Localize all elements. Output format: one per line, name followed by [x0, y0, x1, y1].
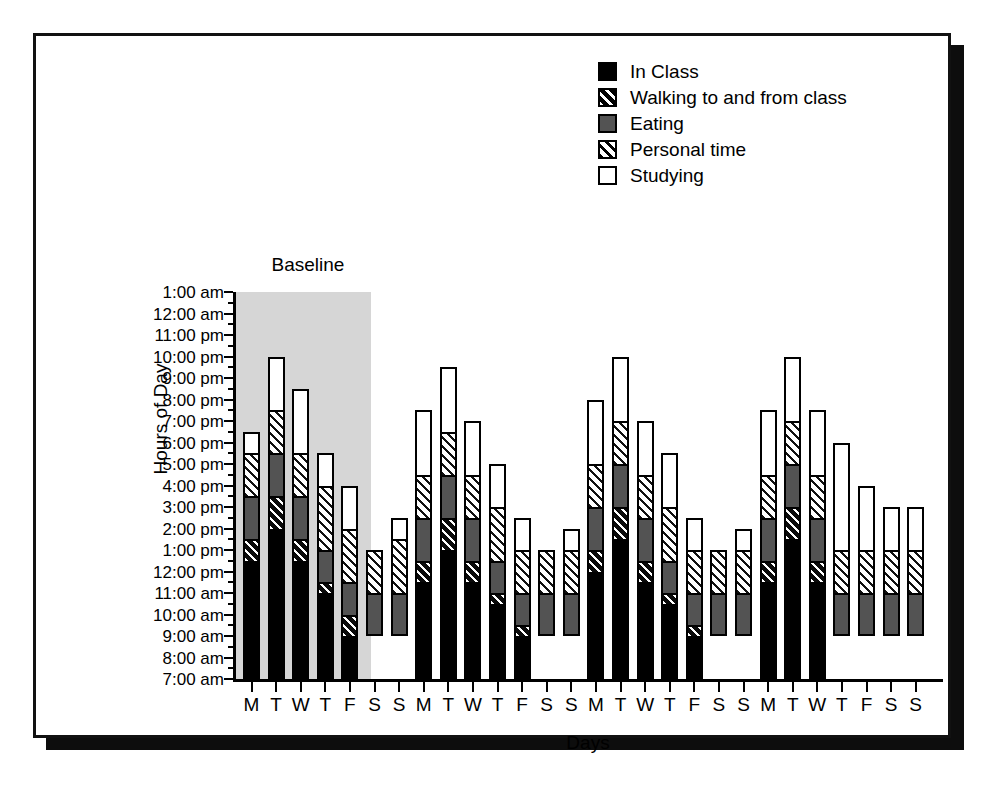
bar-segment: [514, 550, 531, 593]
x-tick-label: S: [387, 694, 411, 716]
x-tick-mark: [324, 682, 326, 692]
x-tick-label: S: [707, 694, 731, 716]
bar-segment: [686, 625, 703, 636]
bar-segment: [637, 518, 654, 561]
x-tick-label: S: [732, 694, 756, 716]
y-tick-label: 11:00 am: [154, 585, 224, 602]
bar-column: [760, 410, 777, 679]
x-tick-mark: [521, 682, 523, 692]
y-tick-mark-minor: [228, 667, 233, 669]
bar-segment: [637, 582, 654, 679]
bar-segment: [735, 593, 752, 636]
x-tick-mark: [349, 682, 351, 692]
bar-column: [317, 453, 334, 679]
bar-segment: [563, 550, 580, 593]
y-tick-mark: [224, 657, 233, 659]
bar-segment: [268, 496, 285, 528]
x-tick-label: T: [264, 694, 288, 716]
bar-segment: [907, 593, 924, 636]
x-tick-mark: [595, 682, 597, 692]
y-tick-mark: [224, 356, 233, 358]
bar-column: [833, 443, 850, 637]
bar-segment: [710, 550, 727, 593]
y-tick-label: 7:00 am: [163, 671, 224, 688]
x-axis-line: [233, 679, 943, 682]
bar-segment: [587, 400, 604, 465]
bar-segment: [710, 593, 727, 636]
y-tick-label: 3:00 pm: [163, 499, 224, 516]
legend-item-label: Studying: [630, 166, 704, 185]
x-tick-mark: [816, 682, 818, 692]
bar-segment: [440, 550, 457, 679]
y-tick-label: 12:00 am: [153, 305, 224, 322]
bar-segment: [612, 539, 629, 679]
x-tick-label: W: [805, 694, 829, 716]
x-tick-label: T: [313, 694, 337, 716]
y-tick-mark: [224, 635, 233, 637]
y-tick-mark-minor: [228, 560, 233, 562]
bar-segment: [735, 550, 752, 593]
x-tick-label: F: [510, 694, 534, 716]
bar-segment: [317, 453, 334, 485]
x-tick-label: F: [338, 694, 362, 716]
bar-segment: [858, 593, 875, 636]
bar-segment: [243, 496, 260, 539]
bar-column: [514, 518, 531, 679]
bar-segment: [464, 421, 481, 475]
y-tick-mark: [224, 528, 233, 530]
bar-segment: [686, 550, 703, 593]
x-tick-mark: [792, 682, 794, 692]
bar-segment: [833, 550, 850, 593]
bar-segment: [612, 421, 629, 464]
y-tick-mark: [224, 678, 233, 680]
bar-column: [637, 421, 654, 679]
bar-segment: [440, 518, 457, 550]
y-tick-mark: [224, 506, 233, 508]
bar-segment: [563, 593, 580, 636]
x-tick-label: T: [609, 694, 633, 716]
bar-column: [538, 550, 555, 636]
bar-column: [735, 529, 752, 637]
bar-column: [686, 518, 703, 679]
y-tick-mark: [224, 420, 233, 422]
bar-segment: [464, 582, 481, 679]
bar-column: [563, 529, 580, 637]
bar-column: [883, 507, 900, 636]
bar-segment: [760, 561, 777, 583]
y-tick-mark-minor: [228, 345, 233, 347]
bar-segment: [587, 550, 604, 572]
x-tick-mark: [497, 682, 499, 692]
y-tick-label: 12:00 pm: [153, 563, 224, 580]
bar-segment: [907, 550, 924, 593]
legend-item: Studying: [598, 162, 938, 188]
x-tick-mark: [890, 682, 892, 692]
bar-segment: [292, 561, 309, 679]
x-tick-mark: [767, 682, 769, 692]
x-tick-mark: [669, 682, 671, 692]
bar-segment: [243, 432, 260, 454]
y-tick-label: 1:00 am: [163, 284, 224, 301]
x-tick-mark: [743, 682, 745, 692]
bar-column: [489, 464, 506, 679]
y-tick-mark: [224, 485, 233, 487]
bar-segment: [612, 357, 629, 422]
x-tick-label: S: [559, 694, 583, 716]
bar-segment: [661, 561, 678, 593]
bar-segment: [514, 518, 531, 550]
bar-column: [440, 367, 457, 679]
x-tick-mark: [398, 682, 400, 692]
y-tick-mark: [224, 334, 233, 336]
x-tick-label: S: [363, 694, 387, 716]
legend-item-label: In Class: [630, 62, 699, 81]
bar-segment: [809, 582, 826, 679]
bar-segment: [686, 593, 703, 625]
y-tick-mark: [224, 614, 233, 616]
y-tick-mark: [224, 377, 233, 379]
bar-segment: [341, 582, 358, 614]
y-tick-mark: [224, 549, 233, 551]
bar-segment: [514, 636, 531, 679]
bar-segment: [489, 464, 506, 507]
y-tick-mark-minor: [228, 538, 233, 540]
bar-segment: [760, 410, 777, 475]
bar-segment: [366, 593, 383, 636]
